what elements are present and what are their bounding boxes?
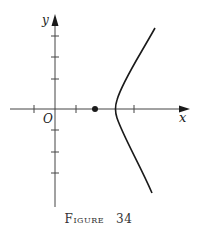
x-axis bbox=[10, 105, 190, 113]
figure-caption: Figure34 bbox=[0, 212, 197, 226]
caption-number: 34 bbox=[116, 212, 132, 226]
y-axis-arrow-icon bbox=[52, 14, 59, 26]
caption-word: Figure bbox=[65, 212, 104, 226]
origin-label: O bbox=[43, 112, 53, 126]
y-axis-label: y bbox=[41, 13, 49, 27]
y-axis bbox=[51, 14, 59, 207]
focus-point bbox=[92, 106, 98, 112]
figure-canvas: y x O bbox=[0, 0, 197, 230]
x-axis-label: x bbox=[179, 110, 187, 125]
curve-branch bbox=[116, 28, 156, 193]
